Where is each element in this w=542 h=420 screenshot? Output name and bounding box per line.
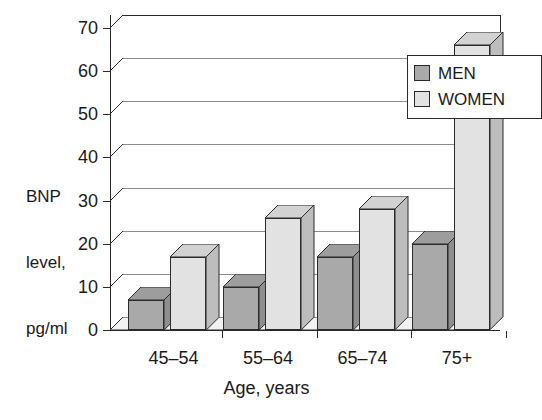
legend-label-men: MEN xyxy=(438,65,476,82)
gridline-depth-connector-20 xyxy=(110,231,125,246)
plot-area: MEN WOMEN xyxy=(110,16,512,346)
y-tick-label-60: 60 xyxy=(54,62,98,80)
x-tick-mark-1 xyxy=(317,331,318,338)
gridline-depth-connector-70 xyxy=(110,15,125,30)
y-tick-mark-70 xyxy=(103,28,110,29)
gridline-depth-connector-30 xyxy=(110,188,125,203)
legend-swatch-women-icon xyxy=(414,91,430,107)
y-axis-line xyxy=(110,15,111,330)
y-tick-label-30: 30 xyxy=(54,192,98,210)
y-tick-label-70: 70 xyxy=(54,19,98,37)
x-axis-title: Age, years xyxy=(0,378,533,398)
y-tick-mark-10 xyxy=(103,287,110,288)
y-tick-label-0: 0 xyxy=(54,321,98,339)
y-tick-mark-0 xyxy=(103,330,110,331)
legend-item-men: MEN xyxy=(414,60,535,86)
legend-item-women: WOMEN xyxy=(414,86,535,112)
y-tick-mark-50 xyxy=(103,114,110,115)
y-tick-label-40: 40 xyxy=(54,148,98,166)
bar-women-45-54 xyxy=(170,244,219,330)
bar-front-face xyxy=(170,257,206,330)
gridline-depth-connector-10 xyxy=(110,274,125,289)
bar-front-face xyxy=(359,209,395,330)
gridline-40 xyxy=(123,144,500,145)
y-axis-tick-labels: 010203040506070 xyxy=(54,0,98,420)
bar-front-face xyxy=(265,218,301,330)
x-tick-mark-0 xyxy=(222,331,223,338)
y-tick-label-10: 10 xyxy=(54,278,98,296)
legend: MEN WOMEN xyxy=(407,55,542,119)
gridline-depth-connector-50 xyxy=(110,101,125,116)
bar-women-55-64 xyxy=(265,205,314,330)
x-tick-label-0: 45–54 xyxy=(148,348,198,368)
y-tick-mark-60 xyxy=(103,71,110,72)
x-tick-mark-3 xyxy=(506,331,507,338)
x-tick-mark-2 xyxy=(411,331,412,338)
y-tick-mark-30 xyxy=(103,201,110,202)
y-tick-mark-40 xyxy=(103,157,110,158)
bar-front-face xyxy=(317,257,353,330)
bar-front-face xyxy=(128,300,164,330)
legend-label-women: WOMEN xyxy=(438,91,505,108)
bar-women-65-74 xyxy=(359,196,408,330)
y-tick-label-50: 50 xyxy=(54,105,98,123)
legend-swatch-men-icon xyxy=(414,65,430,81)
gridline-30 xyxy=(123,188,500,189)
gridline-depth-connector-60 xyxy=(110,58,125,73)
x-axis-tick-labels: 45–5455–6465–7475+ xyxy=(110,348,512,376)
x-tick-label-3: 75+ xyxy=(442,348,473,368)
gridline-depth-connector-40 xyxy=(110,144,125,159)
gridline-70 xyxy=(123,15,500,16)
bar-front-face xyxy=(412,244,448,330)
y-tick-label-20: 20 xyxy=(54,235,98,253)
x-tick-label-1: 55–64 xyxy=(243,348,293,368)
bar-front-face xyxy=(223,287,259,330)
y-tick-mark-20 xyxy=(103,244,110,245)
x-tick-label-2: 65–74 xyxy=(337,348,387,368)
